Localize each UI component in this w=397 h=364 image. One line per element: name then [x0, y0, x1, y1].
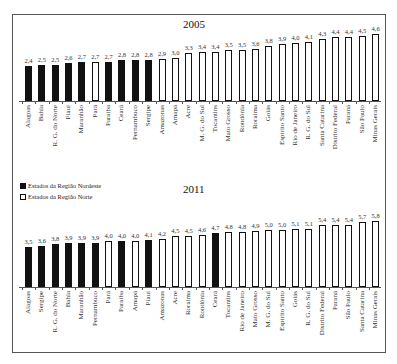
axis-tick	[209, 287, 210, 290]
data-label: 4,9	[248, 222, 262, 229]
category-label: Pará	[104, 291, 112, 361]
data-label: 4,5	[168, 227, 182, 234]
data-label: 4,1	[142, 231, 156, 238]
data-label: 4,7	[208, 224, 222, 231]
category-label: Pernambuco	[91, 291, 99, 361]
category-label: Tocantins	[224, 291, 232, 361]
bar	[239, 232, 246, 287]
axis-tick	[129, 287, 130, 290]
axis-tick	[302, 287, 303, 290]
axis-tick	[62, 287, 63, 290]
axis-tick	[142, 287, 143, 290]
axis-tick	[35, 287, 36, 290]
data-label: 4,0	[115, 232, 129, 239]
data-label: 5,0	[275, 221, 289, 228]
category-label: Rondônia	[198, 291, 206, 361]
category-label: Santa Catarina	[358, 291, 366, 361]
data-label: 5,4	[315, 216, 329, 223]
data-label: 4,5	[182, 227, 196, 234]
data-label: 5,8	[369, 212, 383, 219]
bar	[52, 244, 59, 287]
axis-tick	[276, 287, 277, 290]
bar	[332, 225, 339, 287]
data-label: 3,6	[35, 237, 49, 244]
axis-tick	[316, 287, 317, 290]
chart-2011: 2011 3,5Alagoas3,6Sergipe3,8R. G. do Nor…	[0, 0, 397, 364]
category-label: Maranhão	[77, 291, 85, 361]
axis-tick	[49, 287, 50, 290]
data-label: 5,4	[342, 216, 356, 223]
data-label: 3,5	[22, 238, 36, 245]
bar	[265, 230, 272, 287]
data-label: 5,4	[329, 216, 343, 223]
category-label: Bahia	[64, 291, 72, 361]
axis-tick	[182, 287, 183, 290]
axis-tick	[342, 287, 343, 290]
bar	[38, 246, 45, 287]
axis-tick	[236, 287, 237, 290]
bar	[78, 243, 85, 287]
bar	[372, 221, 379, 287]
bar	[225, 232, 232, 287]
category-label: Ceará	[211, 291, 219, 361]
data-label: 5,1	[302, 220, 316, 227]
bar	[319, 225, 326, 287]
axis-tick	[222, 287, 223, 290]
category-label: Amapá	[131, 291, 139, 361]
bar	[359, 222, 366, 287]
category-label: Mato Grosso	[251, 291, 259, 361]
axis-tick	[102, 287, 103, 290]
data-label: 4,0	[102, 232, 116, 239]
bar	[65, 243, 72, 287]
category-label: M. G. do Sul	[264, 291, 272, 361]
axis-tick	[329, 287, 330, 290]
category-label: Paraíba	[117, 291, 125, 361]
category-label: Espírito Santo	[278, 291, 286, 361]
bar	[172, 236, 179, 287]
x-axis	[19, 287, 381, 288]
category-label: Acre	[171, 291, 179, 361]
axis-tick	[115, 287, 116, 290]
chart-title-2011: 2011	[183, 183, 205, 195]
data-label: 3,9	[75, 234, 89, 241]
axis-tick	[262, 287, 263, 290]
bar	[132, 241, 139, 287]
bar	[185, 236, 192, 287]
bar	[279, 230, 286, 287]
bar	[118, 241, 125, 287]
data-label: 3,9	[62, 234, 76, 241]
category-label: Roraima	[184, 291, 192, 361]
bar	[199, 235, 206, 287]
bar	[212, 233, 219, 287]
category-label: Sergipe	[37, 291, 45, 361]
bar	[92, 243, 99, 287]
category-label: Minas Gerais	[371, 291, 379, 361]
category-label: Amazonas	[158, 291, 166, 361]
bar	[105, 241, 112, 287]
category-label: Piauí	[144, 291, 152, 361]
category-label: Distrito Federal	[318, 291, 326, 361]
category-label: Paraná	[331, 291, 339, 361]
axis-tick	[196, 287, 197, 290]
category-label: São Paulo	[344, 291, 352, 361]
data-label: 3,8	[48, 235, 62, 242]
data-label: 4,6	[195, 226, 209, 233]
bar	[159, 239, 166, 287]
data-label: 3,9	[88, 234, 102, 241]
category-label: R. G. do Sul	[304, 291, 312, 361]
axis-tick	[249, 287, 250, 290]
category-label: R. G. do Norte	[51, 291, 59, 361]
bar	[292, 229, 299, 287]
data-label: 5,7	[355, 213, 369, 220]
data-label: 4,8	[222, 223, 236, 230]
axis-tick	[356, 287, 357, 290]
category-label: Rio de Janeiro	[238, 291, 246, 361]
data-label: 4,0	[128, 232, 142, 239]
bar	[305, 229, 312, 287]
category-label: Alagoas	[24, 291, 32, 361]
axis-tick	[22, 287, 23, 290]
axis-tick	[289, 287, 290, 290]
axis-tick	[156, 287, 157, 290]
bar	[252, 231, 259, 287]
axis-tick	[89, 287, 90, 290]
